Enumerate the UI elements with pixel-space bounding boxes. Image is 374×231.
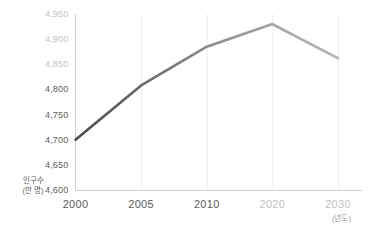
y-tick-4700: 4,700 (0, 135, 69, 145)
y-tick-4650: 4,650 (0, 160, 69, 170)
y-tick-4800: 4,800 (0, 84, 69, 94)
y-tick-4850: 4,850 (0, 59, 69, 69)
x-tick-2020: 2020 (260, 198, 286, 210)
x-axis-title: (년도) (332, 212, 351, 223)
x-tick-2005: 2005 (128, 198, 154, 210)
y-tick-4900: 4,900 (0, 34, 69, 44)
x-tick-2000: 2000 (63, 198, 89, 210)
y-axis-title-line2: (만 명) (2, 186, 44, 196)
population-line-chart: 4,6004,6504,7004,7504,8004,8504,9004,950… (0, 0, 374, 231)
y-axis-title: 인구수 (만 명) (2, 176, 44, 196)
y-axis-title-line1: 인구수 (2, 176, 44, 186)
x-tick-2030: 2030 (325, 198, 351, 210)
chart-gridlines (142, 14, 339, 190)
y-tick-4950: 4,950 (0, 9, 69, 19)
y-tick-4750: 4,750 (0, 110, 69, 120)
x-tick-2010: 2010 (194, 198, 220, 210)
